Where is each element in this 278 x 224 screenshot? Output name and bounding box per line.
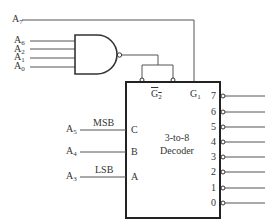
output-pin-6: 6: [211, 107, 216, 117]
decoder-outputs: [221, 94, 265, 205]
output-pin-2: 2: [211, 167, 216, 177]
output-pin-5: 5: [211, 122, 216, 132]
label-a5: A5: [66, 124, 77, 136]
label-msb: MSB: [93, 118, 114, 128]
output-pin-0: 0: [211, 198, 216, 208]
output-pin-4: 4: [211, 137, 216, 147]
label-lsb: LSB: [95, 165, 113, 175]
pin-c: C: [131, 125, 138, 135]
output-pin-7: 7: [211, 91, 216, 101]
pin-a: A: [131, 172, 138, 182]
decoder-title: 3-to-8 Decoder: [142, 131, 212, 157]
nand-gate-icon: [75, 35, 117, 74]
pin-g1: G1: [190, 89, 201, 101]
pin-g2-bar: G2: [151, 89, 162, 101]
label-a0: A0: [14, 61, 25, 73]
diagram-canvas: A7 A6 A2 A1 A0 A5 A4 A3 MSB LSB C B A G2…: [0, 0, 278, 224]
output-pin-3: 3: [211, 152, 216, 162]
label-a7: A7: [12, 14, 23, 26]
decoder-title-line2: Decoder: [142, 144, 212, 157]
decoder-title-line1: 3-to-8: [142, 131, 212, 144]
label-a3: A3: [66, 171, 77, 183]
pin-b: B: [131, 147, 138, 157]
label-a4: A4: [66, 146, 77, 158]
circuit-wires: [0, 0, 278, 224]
nand-output-bubble: [117, 53, 121, 57]
output-pin-1: 1: [211, 183, 216, 193]
